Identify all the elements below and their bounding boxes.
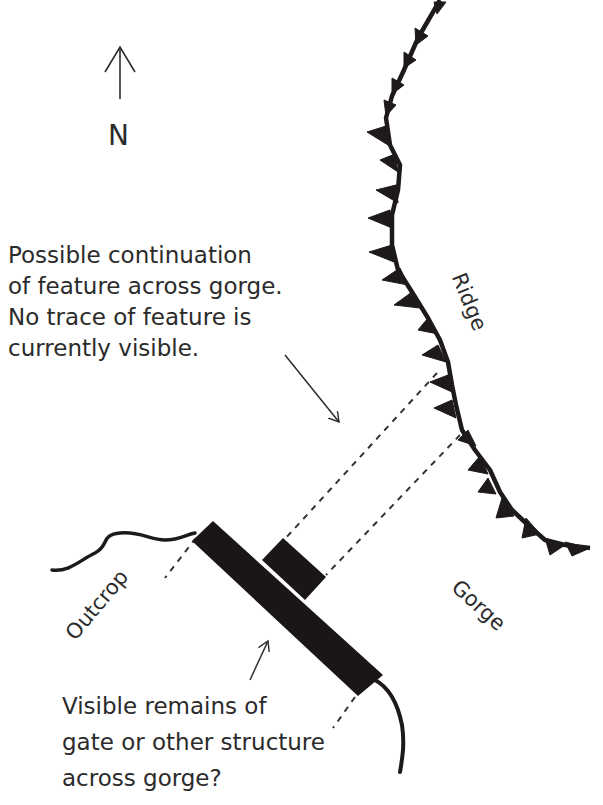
continuation-arrow-icon (285, 355, 339, 422)
north-arrow-icon (105, 47, 135, 99)
continuation-annotation: Possible continuation of feature across … (8, 240, 283, 364)
ridge-line (367, 0, 590, 556)
remains-line-1: Visible remains of (62, 688, 325, 724)
gorge-sketch-map (0, 0, 603, 805)
remains-line-2: gate or other structure (62, 724, 325, 760)
continuation-line-3: No trace of feature is (8, 302, 283, 333)
north-label: N (108, 120, 129, 151)
continuation-line-1: Possible continuation (8, 240, 283, 271)
remains-annotation: Visible remains of gate or other structu… (62, 688, 325, 796)
structure-remains (192, 521, 383, 696)
remains-arrow-icon (250, 641, 268, 680)
gorge-edge-line (375, 680, 403, 772)
continuation-line-2: of feature across gorge. (8, 271, 283, 302)
remains-line-3: across gorge? (62, 760, 325, 796)
outcrop-line (52, 533, 195, 571)
continuation-line-4: currently visible. (8, 333, 283, 364)
